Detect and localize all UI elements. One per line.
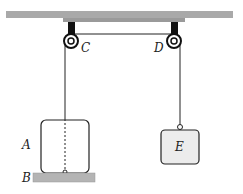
label-e: E xyxy=(174,140,184,154)
pulley-diagram: C D A B E xyxy=(0,0,243,194)
label-c: C xyxy=(81,41,90,55)
label-b: B xyxy=(21,171,31,185)
mount-plate xyxy=(63,18,185,22)
block-e-hook xyxy=(178,125,183,130)
floor-b xyxy=(33,173,95,182)
label-a: A xyxy=(21,138,31,152)
ceiling xyxy=(6,11,233,18)
pulley-d xyxy=(167,34,181,48)
label-d: D xyxy=(153,41,164,55)
pulley-c xyxy=(64,34,78,48)
